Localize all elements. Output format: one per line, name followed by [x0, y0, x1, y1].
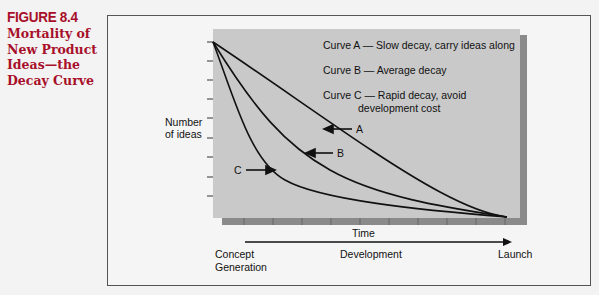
legend-c-line1: Curve C — Rapid decay, avoid [323, 89, 467, 101]
plot-area [213, 29, 520, 218]
label-c: C [234, 164, 242, 176]
y-axis-label-line2: of ideas [165, 128, 202, 140]
stage-development: Development [340, 248, 402, 260]
legend-a: Curve A — Slow decay, carry ideas along [323, 39, 515, 51]
time-arrowhead [503, 238, 512, 246]
label-a: A [356, 123, 363, 135]
legend-b: Curve B — Average decay [323, 64, 447, 76]
stage-launch: Launch [498, 248, 533, 260]
y-axis-label-line1: Number [165, 116, 203, 128]
y-ticks [207, 42, 213, 196]
label-b: B [337, 147, 344, 159]
decay-chart: A B C Curve A — Slow decay, carry ideas … [0, 0, 599, 295]
x-axis-label: Time [352, 227, 375, 239]
legend-c-line2: development cost [358, 102, 440, 114]
stage-concept-line1: Concept [215, 248, 254, 260]
stage-concept-line2: Generation [215, 261, 267, 273]
